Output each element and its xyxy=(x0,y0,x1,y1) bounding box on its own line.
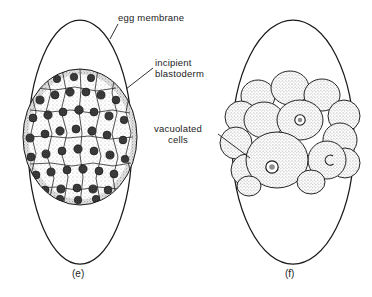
label-vacuolated-cells: vacuolated cells xyxy=(139,123,217,145)
incipient-blastoderm-mass xyxy=(23,69,137,205)
vacuolated-cells-cluster xyxy=(220,71,360,196)
label-vacuolated-line1: vacuolated xyxy=(139,123,217,134)
cut-off-caption-text xyxy=(0,288,372,297)
panel-caption-f: (f) xyxy=(285,268,294,279)
figure-canvas xyxy=(0,0,372,297)
egg-membrane-leader xyxy=(110,24,118,39)
panel-e-group xyxy=(23,20,153,264)
label-incipient-line2: blastoderm xyxy=(155,68,204,79)
blastomere xyxy=(297,170,325,194)
panel-caption-e: (e) xyxy=(72,268,84,279)
vacuole-core-large xyxy=(269,164,275,170)
panel-f-group xyxy=(218,20,360,264)
figure-root: egg membrane incipient blastoderm vacuol… xyxy=(0,0,372,297)
label-egg-membrane: egg membrane xyxy=(118,12,184,23)
label-incipient-line1: incipient xyxy=(155,57,204,68)
label-vacuolated-line2: cells xyxy=(139,134,217,145)
incipient-blastoderm-leader xyxy=(126,68,153,89)
blastomere xyxy=(237,176,261,196)
label-incipient-blastoderm: incipient blastoderm xyxy=(155,57,204,79)
vacuole-core xyxy=(298,118,303,123)
